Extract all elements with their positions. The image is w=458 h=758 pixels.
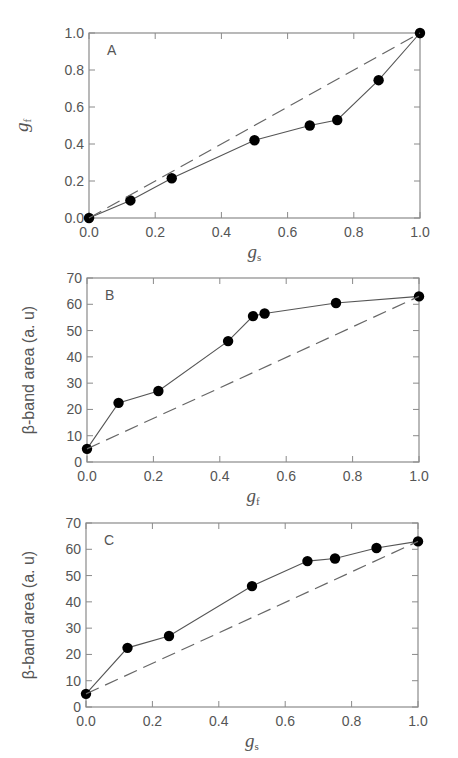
y-tick-label: 60 bbox=[66, 296, 82, 312]
x-axis-label: gf bbox=[246, 485, 260, 507]
data-point-marker bbox=[259, 308, 269, 318]
reference-dashed-line bbox=[86, 541, 418, 693]
y-axis-label: gf bbox=[11, 119, 33, 133]
data-point-marker bbox=[153, 386, 163, 396]
y-tick-label: 30 bbox=[66, 375, 82, 391]
data-point-marker bbox=[302, 556, 312, 566]
y-tick-label: 10 bbox=[66, 428, 82, 444]
y-tick-label: 60 bbox=[65, 541, 81, 557]
y-tick-label: 1.0 bbox=[65, 25, 85, 41]
x-tick-label: 1.0 bbox=[408, 713, 428, 729]
x-axis-label-sub: s bbox=[255, 740, 259, 752]
x-tick-label: 0.6 bbox=[278, 224, 298, 240]
data-point-marker bbox=[373, 75, 383, 85]
x-tick-label: 0.0 bbox=[79, 224, 99, 240]
y-tick-label: 30 bbox=[65, 620, 81, 636]
reference-dashed-line bbox=[89, 33, 420, 218]
y-tick-label: 0 bbox=[73, 699, 81, 715]
x-axis-label-sub: f bbox=[256, 495, 260, 507]
data-point-marker bbox=[371, 543, 381, 553]
x-tick-label: 0.0 bbox=[76, 713, 96, 729]
y-axis-label: β-band area (a. u) bbox=[20, 306, 37, 434]
data-point-marker bbox=[113, 398, 123, 408]
y-tick-label: 40 bbox=[65, 594, 81, 610]
y-axis-label: β-band area (a. u) bbox=[20, 551, 37, 679]
chart-svg: 0.00.20.40.60.81.00.00.20.40.60.81.0Agsg… bbox=[0, 0, 458, 758]
x-axis-label: gs bbox=[248, 241, 262, 263]
x-axis-label: gs bbox=[245, 730, 259, 752]
y-tick-label: 20 bbox=[65, 646, 81, 662]
y-tick-label: 0.8 bbox=[65, 62, 85, 78]
x-axis-label-sub: s bbox=[257, 251, 261, 263]
figure: 0.00.20.40.60.81.00.00.20.40.60.81.0Agsg… bbox=[0, 0, 458, 758]
y-tick-label: 70 bbox=[65, 515, 81, 531]
data-point-marker bbox=[249, 135, 259, 145]
panel-label: A bbox=[107, 42, 117, 58]
x-tick-label: 0.2 bbox=[144, 468, 164, 484]
plot-frame bbox=[87, 278, 419, 462]
x-tick-label: 0.8 bbox=[342, 713, 362, 729]
x-tick-label: 0.4 bbox=[210, 468, 230, 484]
panel-a: 0.00.20.40.60.81.00.00.20.40.60.81.0Agsg… bbox=[11, 25, 430, 263]
y-tick-label: 10 bbox=[65, 673, 81, 689]
y-tick-label: 0 bbox=[74, 454, 82, 470]
y-tick-label: 0.6 bbox=[65, 99, 85, 115]
x-tick-label: 0.6 bbox=[276, 468, 296, 484]
data-point-marker bbox=[305, 120, 315, 130]
x-tick-label: 0.4 bbox=[212, 224, 232, 240]
data-point-marker bbox=[332, 115, 342, 125]
x-tick-label: 0.2 bbox=[143, 713, 163, 729]
y-axis-label-sub: f bbox=[21, 119, 33, 123]
y-tick-label: 70 bbox=[66, 270, 82, 286]
x-tick-label: 1.0 bbox=[410, 224, 430, 240]
x-tick-label: 0.8 bbox=[344, 224, 364, 240]
panel-b: 0.00.20.40.60.81.0010203040506070Bgfβ-ba… bbox=[20, 270, 429, 507]
y-tick-label: 0.0 bbox=[65, 210, 85, 226]
data-point-marker bbox=[414, 291, 424, 301]
panel-c: 0.00.20.40.60.81.0010203040506070Cgsβ-ba… bbox=[20, 515, 428, 752]
data-point-marker bbox=[122, 643, 132, 653]
data-point-marker bbox=[330, 553, 340, 563]
y-tick-label: 0.4 bbox=[65, 136, 85, 152]
data-point-marker bbox=[247, 581, 257, 591]
x-tick-label: 0.8 bbox=[343, 468, 363, 484]
data-point-marker bbox=[167, 173, 177, 183]
panel-label: B bbox=[105, 287, 114, 303]
y-tick-label: 40 bbox=[66, 349, 82, 365]
y-tick-label: 50 bbox=[66, 323, 82, 339]
y-tick-label: 20 bbox=[66, 401, 82, 417]
panel-label: C bbox=[104, 532, 114, 548]
x-tick-label: 0.6 bbox=[275, 713, 295, 729]
data-point-marker bbox=[248, 311, 258, 321]
x-tick-label: 1.0 bbox=[409, 468, 429, 484]
data-point-marker bbox=[223, 336, 233, 346]
y-tick-label: 0.2 bbox=[65, 173, 85, 189]
x-tick-label: 0.0 bbox=[77, 468, 97, 484]
y-tick-label: 50 bbox=[65, 568, 81, 584]
x-tick-label: 0.4 bbox=[209, 713, 229, 729]
data-point-marker bbox=[331, 298, 341, 308]
data-point-marker bbox=[164, 631, 174, 641]
x-tick-label: 0.2 bbox=[145, 224, 165, 240]
